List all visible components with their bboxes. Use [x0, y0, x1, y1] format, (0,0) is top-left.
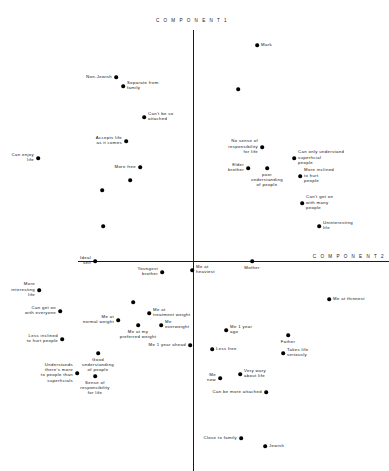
data-point — [264, 390, 268, 394]
data-point — [93, 259, 97, 263]
data-point-label: Non-Jewish — [86, 74, 112, 79]
data-point — [263, 444, 267, 448]
data-point — [96, 351, 100, 355]
data-point-label: poor understanding of people — [251, 172, 283, 188]
data-point-label: Less inclined to hurt people — [27, 333, 58, 344]
data-point-label: Father — [281, 339, 296, 344]
data-point — [75, 371, 79, 375]
horizontal-axis-component-2 — [78, 261, 389, 262]
data-point-label: Sense of responsibility for life — [80, 380, 110, 396]
data-point-label: Accepts life as it comes — [96, 135, 122, 146]
data-point — [160, 270, 164, 274]
data-point-label: Me at treatment weight — [153, 307, 190, 318]
data-point — [224, 328, 228, 332]
scatter-plot-figure: C O M P O N E N T 1 C O M P O N E N T 2 … — [0, 0, 389, 471]
data-point — [147, 311, 151, 315]
data-point-label: Uninteresting life — [323, 220, 353, 231]
data-point-label: More free — [114, 164, 136, 169]
data-point-label: More interesting life — [11, 281, 35, 297]
data-point-label: Good understanding of people — [82, 357, 114, 373]
data-point-label: Separate from family — [127, 80, 159, 91]
data-point — [300, 201, 304, 205]
data-point — [236, 87, 240, 91]
data-point — [37, 288, 41, 292]
data-point — [60, 337, 64, 341]
data-point — [250, 259, 254, 263]
data-point — [238, 372, 242, 376]
data-point-label: Can get on with everyone — [25, 305, 56, 316]
data-point-label: Can be more attached — [212, 389, 262, 394]
data-point-label: Can only understand superficial people — [298, 149, 344, 165]
data-point-label: Very wary about life — [244, 368, 266, 379]
data-point — [188, 343, 192, 347]
data-point — [100, 188, 104, 192]
data-point — [93, 374, 97, 378]
data-point-label: Takes life seriously — [287, 347, 308, 358]
data-point — [281, 351, 285, 355]
data-point-label: Me overweight — [165, 319, 189, 330]
data-point — [138, 165, 142, 169]
data-point — [298, 174, 302, 178]
data-point — [101, 224, 105, 228]
data-point-label: Mark — [261, 42, 272, 47]
data-point — [218, 376, 222, 380]
data-point — [327, 297, 331, 301]
vertical-axis-component-1 — [193, 30, 194, 471]
data-point — [246, 166, 250, 170]
data-point-label: Jewish — [269, 443, 284, 448]
data-point-label: Mother — [244, 265, 259, 270]
data-point-label: Can't get on with many people — [306, 194, 333, 210]
data-point-label: Close to family — [204, 435, 237, 440]
data-point — [36, 156, 40, 160]
data-point-label: Me 1 year ago — [230, 324, 252, 335]
data-point-label: Less free — [216, 346, 237, 351]
data-point — [239, 436, 243, 440]
data-point — [190, 268, 194, 272]
data-point — [317, 224, 321, 228]
data-point — [124, 139, 128, 143]
data-point — [136, 323, 140, 327]
data-point — [159, 323, 163, 327]
data-point-label: Me at normal weight — [83, 314, 114, 325]
data-point-label: Youngest brother — [137, 266, 158, 277]
data-point-label: Can't be so attached — [148, 111, 173, 122]
data-point-label: No sense of responsibility for life — [228, 138, 258, 154]
data-point-label: Ideal self — [80, 255, 91, 266]
data-point — [255, 43, 259, 47]
data-point-label: Elder brother — [228, 162, 244, 173]
vertical-axis-title: C O M P O N E N T 1 — [156, 18, 228, 23]
data-point — [142, 115, 146, 119]
data-point — [116, 318, 120, 322]
data-point — [210, 347, 214, 351]
data-point — [58, 309, 62, 313]
data-point-label: Can enjoy life — [12, 152, 35, 163]
data-point — [131, 300, 135, 304]
data-point-label: Me at thinnest — [333, 296, 365, 301]
data-point-label: Me at my preferred weight — [120, 329, 157, 340]
horizontal-axis-title: C O M P O N E N T 2 — [313, 254, 385, 259]
data-point-label: Me 1 year ahead — [149, 342, 187, 347]
data-point — [121, 84, 125, 88]
data-point-label: Understands there's more to people than … — [41, 362, 73, 384]
data-point-label: Me at heaviest — [196, 264, 215, 275]
data-point — [114, 75, 118, 79]
data-point — [128, 178, 132, 182]
data-point-label: More inclined to hurt people — [304, 167, 334, 183]
data-point — [260, 145, 264, 149]
data-point — [265, 166, 269, 170]
data-point-label: Me now — [207, 372, 216, 383]
data-point — [286, 333, 290, 337]
data-point — [292, 156, 296, 160]
